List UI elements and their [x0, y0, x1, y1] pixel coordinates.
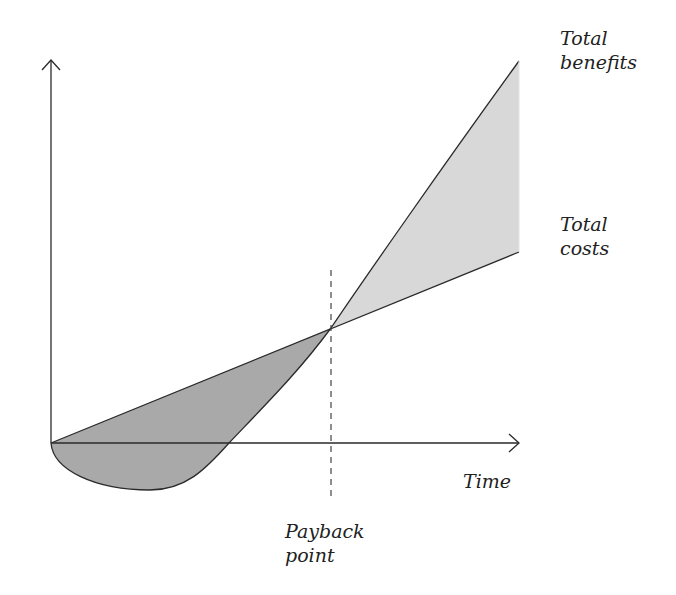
total-costs-line — [51, 252, 519, 443]
payback-diagram — [0, 0, 676, 595]
total-benefits-label: Total benefits — [560, 26, 637, 74]
payback-point-label-line1: Payback — [285, 519, 365, 543]
payback-point-label: Payback point — [285, 519, 365, 567]
x-axis-label: Time — [463, 469, 511, 493]
total-costs-label-line2: costs — [560, 236, 609, 260]
total-benefits-label-line2: benefits — [560, 50, 637, 74]
payback-point-label-line2: point — [285, 543, 365, 567]
total-costs-label-line1: Total — [560, 212, 609, 236]
total-benefits-label-line1: Total — [560, 26, 637, 50]
loss-region — [51, 328, 331, 490]
total-costs-label: Total costs — [560, 212, 609, 260]
time-label: Time — [463, 469, 511, 493]
